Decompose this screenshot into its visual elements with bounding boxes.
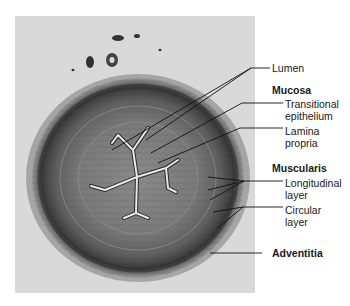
label-line: Lamina — [285, 125, 319, 137]
label-mucosa: Mucosa — [272, 84, 311, 96]
label-line: layer — [285, 216, 321, 228]
label-circular-layer: Circular layer — [285, 204, 321, 228]
label-transitional-epithelium: Transitional epithelium — [285, 98, 339, 122]
label-lumen: Lumen — [272, 62, 304, 74]
label-line: Circular — [285, 204, 321, 216]
label-line: Transitional — [285, 98, 339, 110]
label-line: propria — [285, 137, 319, 149]
label-line: layer — [285, 189, 342, 201]
label-muscularis: Muscularis — [272, 162, 327, 174]
label-line: Longitudinal — [285, 177, 342, 189]
label-adventitia: Adventitia — [272, 247, 323, 259]
ureter-micrograph — [0, 0, 350, 306]
label-line: epithelium — [285, 110, 339, 122]
label-lamina-propria: Lamina propria — [285, 125, 319, 149]
label-longitudinal-layer: Longitudinal layer — [285, 177, 342, 201]
